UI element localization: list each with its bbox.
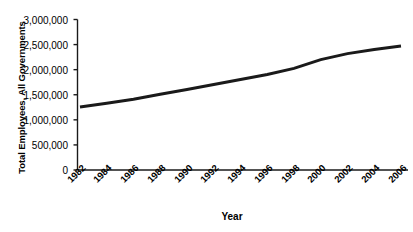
plot-area [0,0,413,232]
x-axis-title: Year [196,211,268,222]
axes [78,20,409,171]
data-series-line [80,46,401,107]
line-chart: Total Employees, All Governments 3,000,0… [0,0,413,232]
